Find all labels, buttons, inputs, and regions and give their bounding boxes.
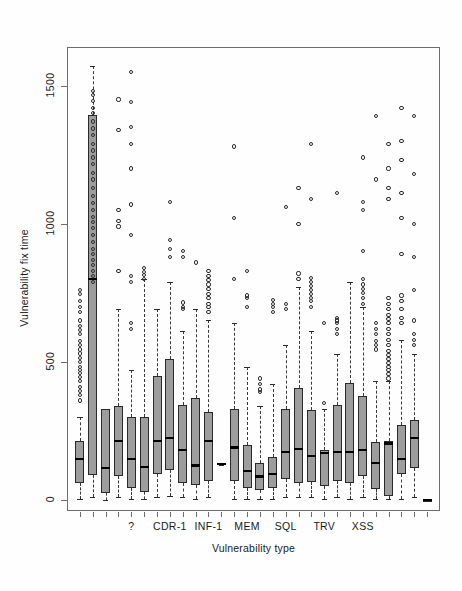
x-axis-tick — [363, 512, 364, 517]
boxplot-whisker-lower — [324, 486, 325, 498]
boxplot-outlier — [91, 142, 95, 146]
boxplot-outlier — [399, 252, 403, 256]
boxplot-outlier — [91, 252, 95, 256]
x-axis-tick — [376, 512, 377, 517]
x-axis-tick — [401, 512, 402, 517]
boxplot-outlier — [168, 200, 172, 204]
boxplot-whisker-cap-lower — [283, 497, 288, 498]
boxplot-outlier — [78, 375, 82, 379]
boxplot-median — [178, 449, 187, 451]
boxplot-outlier — [206, 296, 210, 300]
boxplot-outlier — [386, 338, 390, 342]
boxplot-box — [127, 417, 136, 487]
boxplot-outlier — [399, 106, 403, 110]
x-axis-tick — [389, 512, 390, 517]
boxplot-whisker-lower — [144, 492, 145, 499]
boxplot-whisker-cap-upper — [193, 309, 198, 310]
boxplot-outlier — [386, 376, 390, 380]
boxplot-median — [320, 452, 329, 454]
boxplot-outlier — [296, 186, 300, 190]
boxplot-whisker-lower — [273, 488, 274, 499]
boxplot-outlier — [78, 356, 82, 360]
boxplot-outlier — [361, 302, 365, 306]
boxplot-outlier — [245, 305, 249, 309]
x-axis-tick — [157, 512, 158, 517]
boxplot-outlier — [374, 327, 378, 331]
boxplot-whisker-upper — [350, 282, 351, 383]
boxplot-outlier — [194, 260, 198, 264]
boxplot-outlier — [78, 318, 82, 322]
boxplot-outlier — [91, 215, 95, 219]
boxplot-outlier — [206, 282, 210, 286]
boxplot-outlier — [386, 317, 390, 321]
boxplot-outlier — [78, 389, 82, 393]
boxplot-outlier — [206, 274, 210, 278]
boxplot-outlier — [91, 233, 95, 237]
boxplot-outlier — [399, 293, 403, 297]
boxplot-whisker-cap-upper — [270, 384, 275, 385]
x-axis-tick — [260, 512, 261, 517]
boxplot-box — [397, 425, 406, 473]
boxplot-outlier — [271, 298, 275, 302]
boxplot-outlier — [232, 144, 236, 148]
boxplot-box — [101, 409, 110, 493]
boxplot-outlier — [361, 282, 365, 286]
boxplot-whisker-cap-lower — [232, 499, 237, 500]
boxplot-whisker-lower — [337, 481, 338, 498]
boxplot-whisker-cap-lower — [322, 499, 327, 500]
boxplot-whisker-lower — [260, 490, 261, 498]
boxplot-whisker-cap-upper — [257, 406, 262, 407]
boxplot-outlier — [361, 208, 365, 212]
boxplot-outlier — [374, 321, 378, 325]
boxplot-median — [345, 451, 354, 453]
x-axis-tick — [183, 512, 184, 517]
boxplot-whisker-upper — [414, 354, 415, 420]
boxplot-outlier — [206, 269, 210, 273]
boxplot-box — [153, 376, 162, 474]
boxplot-box — [140, 417, 149, 492]
boxplot-outlier — [258, 387, 262, 391]
x-axis-tick — [324, 512, 325, 517]
boxplot-whisker-cap-lower — [219, 465, 224, 466]
boxplot-whisker-lower — [196, 485, 197, 499]
boxplot-whisker-cap-lower — [141, 499, 146, 500]
y-axis-tick-label: 1500 — [44, 65, 56, 105]
boxplot-outlier — [245, 293, 249, 297]
boxplot-whisker-cap-upper — [373, 381, 378, 382]
boxplot-whisker-cap-lower — [296, 497, 301, 498]
boxplot-outlier — [116, 224, 120, 228]
boxplot-outlier — [91, 171, 95, 175]
boxplot-outlier — [78, 393, 82, 397]
boxplot-outlier — [399, 158, 403, 162]
boxplot-outlier — [168, 247, 172, 251]
boxplot-outlier — [386, 313, 390, 317]
boxplot-outlier — [78, 398, 82, 402]
boxplot-median — [165, 437, 174, 439]
boxplot-outlier — [78, 305, 82, 309]
boxplot-outlier — [129, 202, 133, 206]
boxplot-outlier — [386, 353, 390, 357]
boxplot-median — [127, 458, 136, 460]
boxplot-whisker-upper — [389, 381, 390, 440]
boxplot-outlier — [258, 382, 262, 386]
boxplot-whisker-upper — [170, 282, 171, 359]
boxplot-whisker-cap-lower — [129, 499, 134, 500]
boxplot-outlier — [386, 372, 390, 376]
boxplot-whisker-lower — [106, 493, 107, 500]
boxplot-outlier — [91, 208, 95, 212]
boxplot-median — [410, 437, 419, 439]
boxplot-whisker-cap-lower — [399, 499, 404, 500]
boxplot-whisker-cap-lower — [180, 497, 185, 498]
x-axis-tick — [299, 512, 300, 517]
boxplot-median — [255, 475, 264, 477]
x-axis-tick — [273, 512, 274, 517]
boxplot-outlier — [399, 216, 403, 220]
boxplot-box — [178, 405, 187, 484]
boxplot-outlier — [168, 255, 172, 259]
boxplot-outlier — [116, 269, 120, 273]
boxplot-outlier — [361, 277, 365, 281]
boxplot-whisker-cap-upper — [244, 367, 249, 368]
boxplot-outlier — [78, 324, 82, 328]
boxplot-whisker-cap-upper — [206, 320, 211, 321]
boxplot-whisker-cap-upper — [180, 331, 185, 332]
